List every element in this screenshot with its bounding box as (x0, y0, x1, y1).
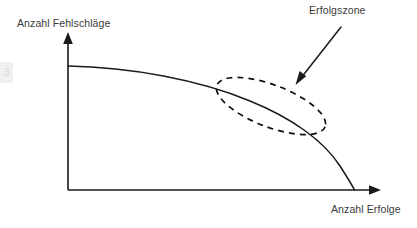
success-zone-ellipse (209, 66, 332, 147)
callout-leader-line (301, 27, 341, 78)
x-axis-label: Anzahl Erfolge (331, 203, 401, 216)
y-axis-label: Anzahl Fehlschläge (17, 17, 110, 30)
tradeoff-diagram: 3 Anzahl Fehlschläge Anzahl Erfolge Erfo… (0, 0, 417, 228)
tradeoff-curve (68, 66, 355, 190)
success-zone-label: Erfolgszone (309, 4, 366, 17)
diagram-canvas (0, 0, 417, 228)
arrow-right-icon (369, 185, 381, 195)
arrow-up-icon (63, 32, 73, 44)
